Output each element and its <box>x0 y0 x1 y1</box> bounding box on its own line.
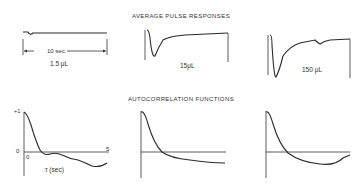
acf-panel-2 <box>141 111 226 178</box>
acf-x-end-tick: 5 <box>106 146 109 152</box>
acf-x-zero-tick: 0 <box>26 154 29 160</box>
pulse-panel-2 <box>145 30 228 62</box>
acf-x-axis-label: τ (sec) <box>45 166 64 173</box>
pulse-label-3: 150 μL <box>302 66 322 73</box>
acf-panel-1 <box>24 112 109 176</box>
pulse-label-1: 1.5 μL <box>50 60 68 67</box>
figure-canvas <box>0 0 362 188</box>
acf-y-top-tick: +1 <box>14 108 20 114</box>
acf-panel-3 <box>266 111 350 178</box>
bottom-title: AUTOCORRELATION FUNCTIONS <box>0 96 362 102</box>
scale-bar-label: 10 sec. <box>46 48 67 54</box>
acf-y-zero-tick: 0 <box>16 148 19 154</box>
pulse-label-2: 15μL <box>180 62 195 69</box>
